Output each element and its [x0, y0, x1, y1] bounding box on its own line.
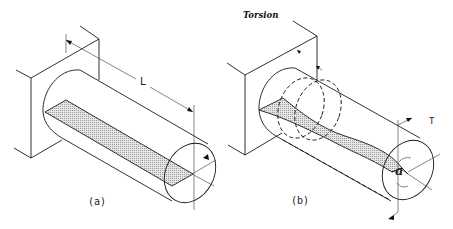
angle-label: a	[395, 163, 403, 178]
wall-block-a	[14, 26, 99, 158]
torsion-diagram	[0, 0, 453, 229]
panel-label-b: (b)	[291, 195, 309, 206]
torque-label-T: T	[429, 116, 434, 126]
panel-label-a: (a)	[88, 196, 106, 207]
shaft-b	[259, 68, 444, 220]
shaft-a	[43, 70, 226, 212]
panel-a	[14, 26, 226, 212]
dimension-label-L: L	[140, 76, 146, 87]
panel-b	[227, 21, 444, 220]
